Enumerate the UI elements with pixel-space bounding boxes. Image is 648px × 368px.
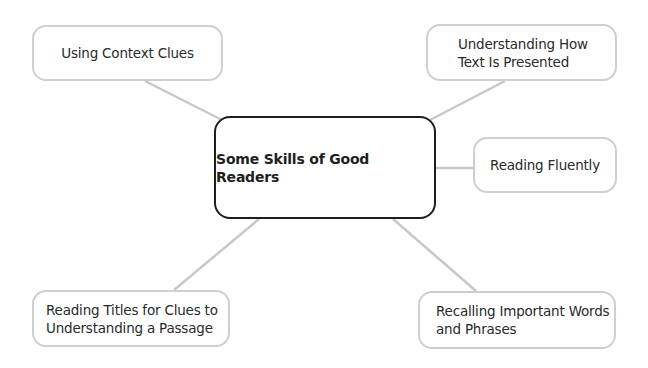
node-understanding-text-presentation: Understanding How Text Is Presented <box>426 24 617 81</box>
node-label: Using Context Clues <box>61 44 194 62</box>
node-using-context-clues: Using Context Clues <box>32 25 223 81</box>
node-label: Recalling Important Words and Phrases <box>436 302 614 338</box>
connector-top-right <box>430 81 505 120</box>
node-reading-titles: Reading Titles for Clues to Understandin… <box>32 290 230 347</box>
connector-bottom-right <box>393 219 476 291</box>
connector-top-left <box>145 81 222 120</box>
central-topic: Some Skills of Good Readers <box>214 116 436 219</box>
node-recalling-words: Recalling Important Words and Phrases <box>418 291 616 349</box>
node-reading-fluently: Reading Fluently <box>473 137 617 193</box>
connector-bottom-left <box>174 219 259 290</box>
node-label: Understanding How Text Is Presented <box>458 35 588 71</box>
central-topic-label: Some Skills of Good Readers <box>216 150 434 186</box>
node-label: Reading Fluently <box>490 156 600 174</box>
node-label: Reading Titles for Clues to Understandin… <box>46 301 226 337</box>
